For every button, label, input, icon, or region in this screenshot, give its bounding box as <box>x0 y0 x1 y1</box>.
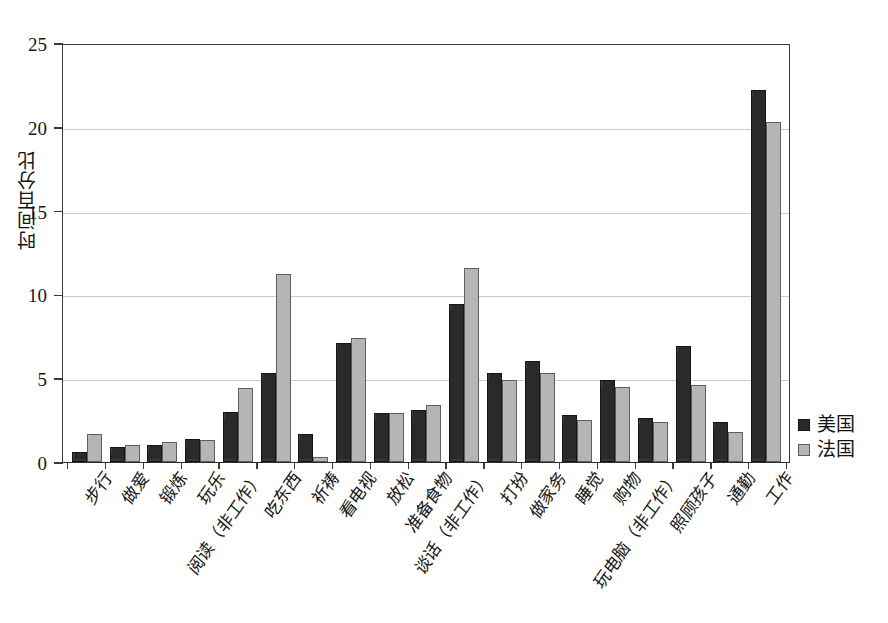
bar <box>336 343 351 462</box>
y-axis-tick-label: 0 <box>38 453 48 475</box>
y-axis-tick-label: 25 <box>28 34 47 56</box>
y-axis-tick-label: 15 <box>28 202 47 224</box>
bar <box>525 361 540 462</box>
x-axis-tick-label: 工作 <box>759 465 797 509</box>
bar <box>162 442 177 462</box>
x-axis-tick-label: 吃东西 <box>257 465 305 523</box>
bar-group <box>559 45 597 462</box>
chart-legend: 美国法国 <box>798 412 855 462</box>
bar-group <box>68 45 106 462</box>
x-axis-label-19: 工作 <box>758 466 798 508</box>
y-axis-tick: 20 <box>28 118 63 140</box>
y-axis-tick: 0 <box>38 453 64 475</box>
bar-group <box>332 45 370 462</box>
bar <box>638 418 653 462</box>
bar <box>223 412 238 462</box>
bar <box>426 405 441 462</box>
bar <box>615 387 630 462</box>
legend-label: 法国 <box>817 437 855 462</box>
bar <box>87 434 102 462</box>
bar <box>502 380 517 462</box>
legend-swatch-us <box>798 419 810 431</box>
bar <box>464 268 479 462</box>
bar <box>261 373 276 462</box>
y-axis-tick: 10 <box>28 285 63 307</box>
bar-group <box>408 45 446 462</box>
bar-series-container <box>63 45 789 462</box>
bar-group <box>596 45 634 462</box>
bar <box>766 122 781 462</box>
legend-swatch-fr <box>798 444 810 456</box>
bar <box>653 422 668 462</box>
bar-group <box>257 45 295 462</box>
x-axis-label-3: 锻炼 <box>153 466 193 508</box>
bar <box>540 373 555 462</box>
x-axis-tick-label: 通勤 <box>721 465 759 509</box>
legend-item: 美国 <box>798 412 855 437</box>
bar <box>147 445 162 462</box>
chart-canvas: 时间百分比 0510152025 步行做爱锻炼玩乐阅读（非工作）吃东西祈祷看电视… <box>0 0 888 623</box>
x-axis-tick-label: 步行 <box>78 465 116 509</box>
bar-group <box>634 45 672 462</box>
y-axis-tick-label: 10 <box>28 285 47 307</box>
y-axis-tick: 5 <box>38 369 64 391</box>
bar <box>487 373 502 462</box>
plot-area: 0510152025 <box>62 44 790 463</box>
y-axis-tick-label: 20 <box>28 118 47 140</box>
bar <box>110 447 125 462</box>
y-axis-tick-mark <box>54 295 63 297</box>
bar <box>577 420 592 462</box>
bar <box>351 338 366 462</box>
bar-group <box>106 45 144 462</box>
y-axis-tick-mark <box>54 127 63 129</box>
bar-group <box>747 45 785 462</box>
legend-item: 法国 <box>798 437 855 462</box>
bar-group <box>521 45 559 462</box>
x-axis-label-2: 做爱 <box>115 466 155 508</box>
bar-group <box>219 45 257 462</box>
y-axis-tick-mark <box>54 43 63 45</box>
bar <box>125 445 140 462</box>
x-axis-label-18: 通勤 <box>720 466 760 508</box>
bar-group <box>483 45 521 462</box>
x-axis-labels: 步行做爱锻炼玩乐阅读（非工作）吃东西祈祷看电视放松准备食物谈话（非工作）打扮做家… <box>62 466 790 616</box>
x-axis-tick-label: 锻炼 <box>153 465 191 509</box>
bar <box>72 452 87 462</box>
bar <box>374 413 389 462</box>
bar <box>276 274 291 462</box>
x-axis-label-1: 步行 <box>77 466 117 508</box>
bar <box>411 410 426 462</box>
bar <box>691 385 706 462</box>
bar-group <box>445 45 483 462</box>
bar <box>600 380 615 462</box>
x-axis-tick-label: 做爱 <box>116 465 154 509</box>
x-axis-tick-label: 睡觉 <box>570 465 608 509</box>
bar <box>313 457 328 462</box>
x-axis-label-14: 睡觉 <box>569 466 609 508</box>
bar <box>676 346 691 462</box>
x-axis-label-6: 吃东西 <box>256 466 306 522</box>
bar <box>238 388 253 462</box>
bar <box>728 432 743 462</box>
x-axis-tick-label: 做家务 <box>522 465 570 523</box>
x-axis-label-8: 看电视 <box>332 466 382 522</box>
bar-group <box>181 45 219 462</box>
bar <box>389 413 404 462</box>
x-axis-tick-label: 看电视 <box>333 465 381 523</box>
y-axis-tick-mark <box>54 211 63 213</box>
bar-group <box>294 45 332 462</box>
bar <box>200 440 215 462</box>
y-axis-tick-label: 5 <box>38 369 48 391</box>
x-axis-label-13: 做家务 <box>521 466 571 522</box>
bar <box>449 304 464 462</box>
bar <box>562 415 577 462</box>
y-axis-tick: 25 <box>28 34 63 56</box>
bar-group <box>672 45 710 462</box>
bar <box>713 422 728 462</box>
bar-group <box>709 45 747 462</box>
legend-label: 美国 <box>817 412 855 437</box>
bar-group <box>143 45 181 462</box>
y-axis-tick-mark <box>54 378 63 380</box>
bar <box>185 439 200 462</box>
bar <box>298 434 313 462</box>
